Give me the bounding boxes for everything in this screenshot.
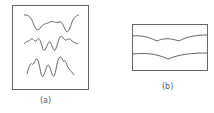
panel-b-upper-curve [132,35,207,41]
diagram-canvas [0,0,214,113]
panel-a-label: (a) [40,96,51,105]
panel-a-wave-1 [24,15,79,32]
panel-a-frame [13,6,89,90]
panel-a-wave-3 [27,57,74,77]
panel-b-frame [133,25,208,71]
panel-b-lower-curve [132,53,207,59]
panel-a-wave-2 [24,36,78,50]
panel-b-label: (b) [162,82,173,91]
